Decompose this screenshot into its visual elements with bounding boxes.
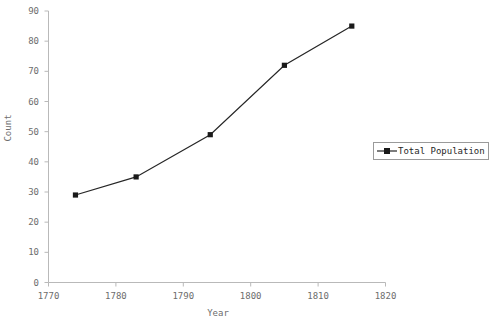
- legend-line-marker-icon: [376, 145, 398, 157]
- x-axis-title: Year: [0, 308, 436, 318]
- axes: [49, 11, 386, 283]
- line-chart: 0102030405060708090 17701780179018001810…: [0, 0, 489, 326]
- plot-canvas: [0, 0, 489, 326]
- x-tick-label: 1810: [307, 291, 329, 301]
- x-tick-label: 1770: [38, 291, 60, 301]
- x-tick-label: 1800: [240, 291, 262, 301]
- data-series: [73, 23, 355, 197]
- y-tick-label: 30: [8, 187, 39, 197]
- y-tick-label: 10: [8, 247, 39, 257]
- legend-item-label: Total Population: [398, 147, 485, 156]
- y-tick-label: 80: [8, 36, 39, 46]
- tick-marks: [45, 11, 386, 287]
- y-axis-title: Count: [3, 103, 13, 153]
- x-tick-label: 1780: [105, 291, 127, 301]
- y-tick-label: 40: [8, 157, 39, 167]
- x-tick-label: 1790: [172, 291, 194, 301]
- y-tick-label: 0: [8, 278, 39, 288]
- legend-item-total-population: Total Population: [376, 143, 485, 159]
- y-tick-label: 90: [8, 6, 39, 16]
- y-tick-label: 70: [8, 66, 39, 76]
- x-tick-label: 1820: [375, 291, 397, 301]
- y-tick-label: 20: [8, 217, 39, 227]
- legend: Total Population: [373, 142, 489, 160]
